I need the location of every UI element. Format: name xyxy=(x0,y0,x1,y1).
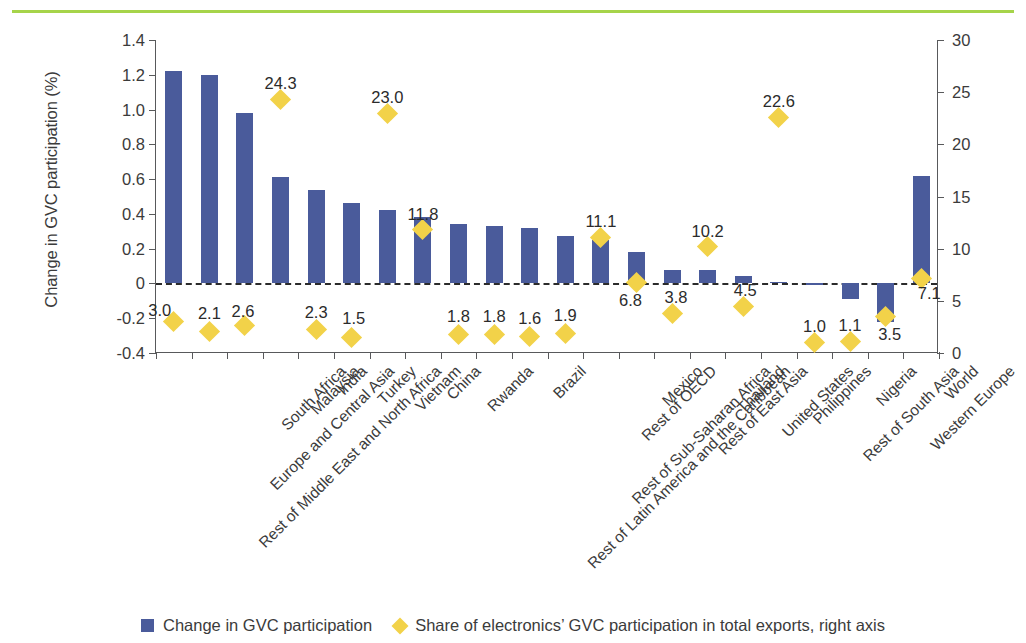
legend-item: Share of electronics’ GVC participation … xyxy=(394,616,885,635)
x-axis-category-labels: Rest of Middle East and North AfricaEuro… xyxy=(0,0,1026,643)
legend-square-icon xyxy=(141,619,154,632)
chart-figure: Change in GVC participation (%) Share of… xyxy=(0,0,1026,643)
chart-legend: Change in GVC participationShare of elec… xyxy=(0,616,1026,635)
legend-label: Share of electronics’ GVC participation … xyxy=(415,616,885,635)
legend-label: Change in GVC participation xyxy=(163,616,372,635)
legend-item: Change in GVC participation xyxy=(141,616,372,635)
legend-diamond-icon xyxy=(392,617,409,634)
x-axis-category-label: Brazil xyxy=(550,363,588,401)
x-axis-category-label: Rwanda xyxy=(484,363,535,414)
